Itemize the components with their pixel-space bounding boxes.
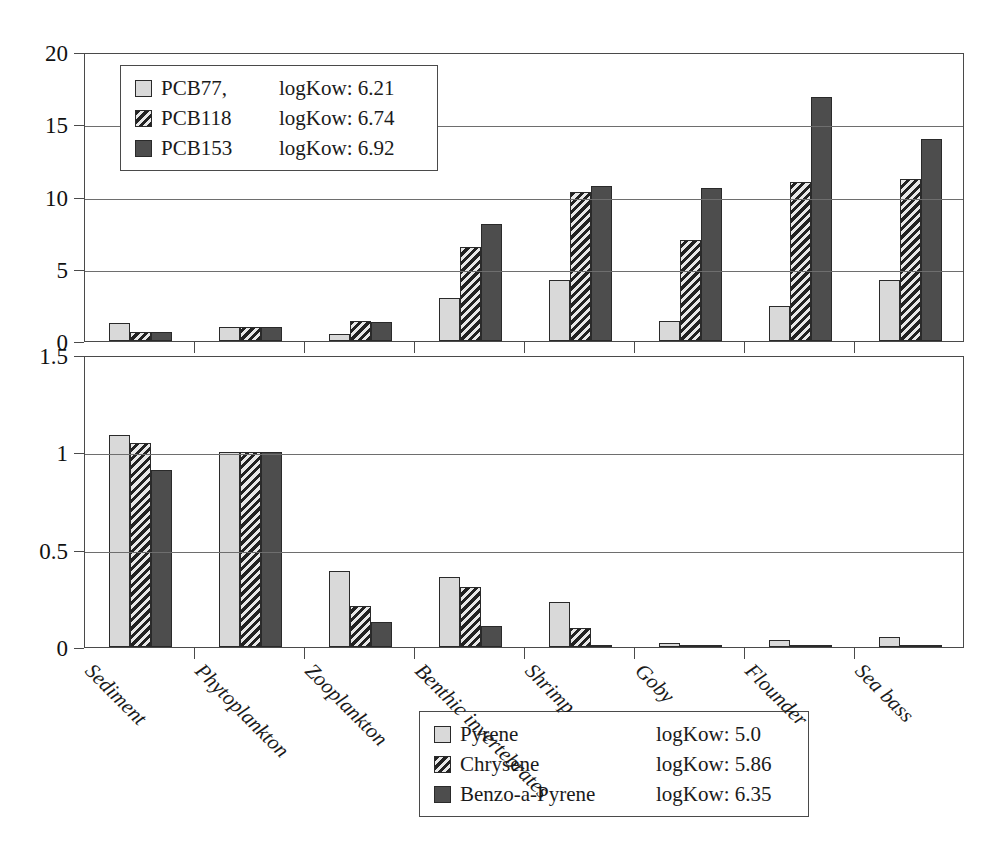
y-axis-tick-label: 0: [0, 637, 68, 660]
legend-series-name: PCB77,: [161, 78, 279, 99]
bar: [570, 628, 591, 647]
bar: [921, 645, 942, 647]
bar: [460, 247, 481, 341]
bar: [769, 306, 790, 341]
legend-series-kow: logKow: 6.21: [279, 78, 395, 99]
y-axis-tick-mark: [74, 270, 84, 271]
bar: [879, 637, 900, 647]
y-axis-tick-mark: [74, 356, 84, 357]
legend-item: PCB153 logKow: 6.92: [135, 133, 421, 163]
bar: [790, 182, 811, 341]
y-axis-tick-mark: [74, 551, 84, 552]
y-axis-tick-label: 1: [0, 442, 68, 465]
bar: [921, 139, 942, 341]
x-axis-category-label: Flounder: [741, 660, 811, 730]
bar: [879, 280, 900, 341]
x-axis-tick-mark: [524, 648, 525, 659]
bar: [900, 179, 921, 341]
bar: [481, 224, 502, 341]
bar: [769, 640, 790, 647]
legend-series-kow: logKow: 6.74: [279, 108, 395, 129]
bar: [109, 435, 130, 647]
bar: [680, 645, 701, 647]
bar: [460, 587, 481, 647]
gridline: [85, 454, 963, 455]
bar: [219, 327, 240, 341]
gridline: [85, 199, 963, 200]
bar-group: [195, 357, 305, 647]
legend-swatch-icon: [135, 80, 152, 97]
chart-panel-pah: 00.511.5 Pyrene logKow: 5.0 Chrysene log…: [0, 340, 986, 660]
bar-group: [85, 357, 195, 647]
bar-group: [855, 54, 965, 341]
legend-item: PCB118 logKow: 6.74: [135, 103, 421, 133]
bar: [811, 645, 832, 647]
x-axis-category-label: Sediment: [81, 660, 150, 729]
bar: [261, 327, 282, 341]
bar-group: [415, 357, 525, 647]
legend-series-name: PCB153: [161, 138, 279, 159]
gridline: [85, 552, 963, 553]
legend-series-kow: logKow: 6.92: [279, 138, 395, 159]
bar: [329, 571, 350, 647]
y-axis-tick-label: 20: [0, 42, 68, 65]
bar: [439, 298, 460, 341]
legend-item: PCB77, logKow: 6.21: [135, 73, 421, 103]
bar-group: [745, 357, 855, 647]
bar: [549, 280, 570, 341]
y-axis-tick-label: 10: [0, 186, 68, 209]
bar: [591, 186, 612, 341]
x-axis-category-label: Sea bass: [851, 660, 917, 726]
bar-group: [635, 357, 745, 647]
y-axis-tick-label: 1.5: [0, 345, 68, 368]
bar-group: [525, 357, 635, 647]
bar: [659, 643, 680, 647]
bar: [549, 602, 570, 647]
bar: [350, 321, 371, 341]
bar: [130, 443, 151, 647]
bar: [481, 626, 502, 647]
bar: [900, 645, 921, 647]
x-axis-category-label: Phytoplankton: [191, 660, 292, 761]
bar-group: [855, 357, 965, 647]
x-axis-tick-mark: [194, 648, 195, 659]
bar: [790, 645, 811, 647]
y-axis-tick-label: 15: [0, 114, 68, 137]
legend-series-name: PCB118: [161, 108, 279, 129]
bar: [350, 606, 371, 647]
bar: [240, 327, 261, 341]
bar: [659, 321, 680, 341]
x-axis-tick-mark: [744, 648, 745, 659]
legend-swatch-icon: [135, 140, 152, 157]
y-axis-tick-mark: [74, 125, 84, 126]
bar-group: [525, 54, 635, 341]
bar: [591, 645, 612, 647]
bar: [261, 452, 282, 647]
bar: [240, 452, 261, 647]
bar: [680, 240, 701, 341]
chart-panel-pcb: 05101520 PCB77, logKow: 6.21 PCB118 logK…: [0, 20, 986, 335]
x-axis-tick-mark: [854, 648, 855, 659]
y-axis-tick-label: 0.5: [0, 539, 68, 562]
y-axis-tick-label: 5: [0, 258, 68, 281]
gridline: [85, 271, 963, 272]
bar-group: [745, 54, 855, 341]
bar: [701, 645, 722, 647]
bar: [109, 323, 130, 341]
bar-group: [635, 54, 745, 341]
bar: [371, 622, 392, 647]
y-axis-tick-mark: [74, 648, 84, 649]
bar: [439, 577, 460, 647]
x-axis-category-label: Goby: [631, 660, 678, 707]
y-axis-tick-mark: [74, 453, 84, 454]
x-axis-category-label: Zooplankton: [301, 660, 391, 750]
y-axis-tick-mark: [74, 53, 84, 54]
bar-group: [305, 357, 415, 647]
x-axis-tick-mark: [304, 648, 305, 659]
x-axis-tick-mark: [634, 648, 635, 659]
legend-pcb: PCB77, logKow: 6.21 PCB118 logKow: 6.74 …: [120, 65, 438, 171]
x-axis-tick-mark: [414, 648, 415, 659]
bar: [151, 470, 172, 647]
bars-layer-pah: [85, 357, 963, 647]
bar: [811, 97, 832, 341]
